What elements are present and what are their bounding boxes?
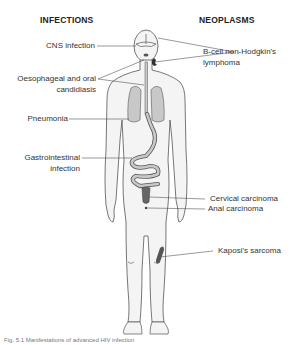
label-gi-line2: infection [50, 164, 80, 174]
label-gi-line1: Gastrointestinal [24, 153, 80, 163]
mouth-icon [144, 54, 149, 57]
right-lung-icon [151, 86, 164, 122]
label-oesophageal-line2: candidiasis [56, 85, 96, 95]
feet [124, 322, 169, 334]
label-oesophageal-line1: Oesophageal and oral [17, 74, 96, 84]
anus-icon [145, 207, 147, 209]
left-lung-icon [128, 86, 141, 122]
label-cervical-carcinoma: Cervical carcinoma [210, 194, 278, 204]
label-lymphoma-line2: lymphoma [203, 58, 240, 68]
oesophagus-icon [145, 62, 148, 114]
label-kaposi-sarcoma: Kaposi's sarcoma [218, 246, 281, 256]
label-lymphoma-line1: B-cell non-Hodgkin's [203, 47, 276, 57]
cervix-icon [142, 187, 150, 204]
label-pneumonia: Pneumonia [28, 114, 68, 124]
label-cns-infection: CNS infection [46, 41, 95, 51]
label-anal-carcinoma: Anal carcinoma [208, 204, 263, 214]
figure-caption: Fig. 5.1 Manifestations of advanced HIV … [4, 337, 134, 343]
